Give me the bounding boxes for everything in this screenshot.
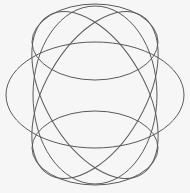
ellipse-diagram xyxy=(0,0,190,193)
tall-ellipse xyxy=(33,6,157,184)
tilted-ellipse-left xyxy=(6,0,185,193)
tilted-ellipse-right xyxy=(6,0,185,193)
